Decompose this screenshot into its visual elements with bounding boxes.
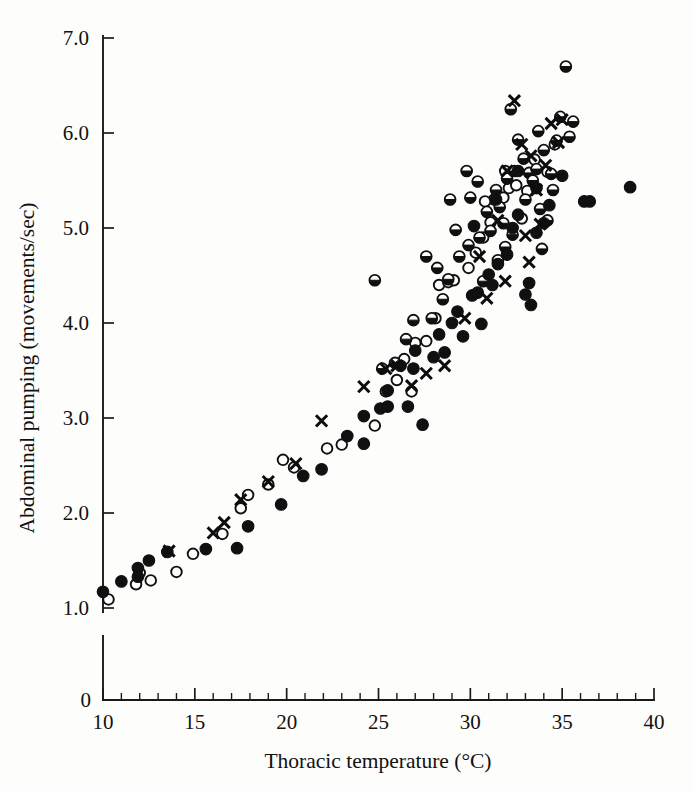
data-point (392, 375, 403, 386)
y-tick-label-6.0: 6.0 (63, 121, 89, 145)
y-origin-label: 0 (81, 688, 92, 712)
data-point (564, 131, 575, 142)
x-tick-label-15: 15 (184, 710, 205, 734)
figure-page: 1.02.03.04.05.06.07.00 10152025303540 Th… (0, 0, 693, 792)
data-point (624, 181, 636, 193)
data-point (358, 410, 370, 422)
x-tick-label-30: 30 (460, 710, 481, 734)
data-point (370, 420, 381, 431)
data-point (481, 206, 492, 217)
data-point (428, 351, 440, 363)
data-point (439, 347, 451, 359)
data-point (143, 555, 155, 567)
data-point (461, 166, 472, 177)
data-point (97, 586, 109, 598)
y-tick-label-1.0: 1.0 (63, 596, 89, 620)
data-point (507, 222, 519, 234)
data-point (145, 575, 156, 586)
data-point (275, 499, 287, 511)
data-point (483, 269, 495, 281)
data-point (490, 194, 502, 206)
data-point (523, 277, 535, 289)
data-point (463, 263, 474, 274)
x-tick-label-20: 20 (276, 710, 297, 734)
data-point (382, 385, 394, 397)
data-point (568, 116, 579, 127)
data-point (446, 317, 458, 329)
data-point (278, 455, 289, 466)
x-tick-label-25: 25 (368, 710, 389, 734)
x-tick-label-40: 40 (644, 710, 665, 734)
data-point (401, 334, 412, 345)
data-point (369, 275, 380, 286)
data-point (474, 232, 485, 243)
data-point (544, 199, 556, 211)
data-point (463, 240, 474, 251)
data-point (512, 165, 524, 177)
x-tick-label-35: 35 (552, 710, 573, 734)
data-point (487, 279, 499, 291)
data-point (485, 225, 496, 236)
y-tick-label-3.0: 3.0 (63, 406, 89, 430)
data-point (417, 419, 429, 431)
x-axis-title: Thoracic temperature (°C) (264, 749, 491, 773)
data-point (132, 571, 144, 583)
data-point (501, 249, 513, 261)
data-point (512, 209, 524, 221)
x-tick-label-10: 10 (93, 710, 114, 734)
data-point (465, 192, 476, 203)
data-point (231, 542, 243, 554)
y-tick-label-4.0: 4.0 (63, 311, 89, 335)
data-point (426, 313, 437, 324)
data-point (322, 443, 333, 454)
scatter-chart: 1.02.03.04.05.06.07.00 10152025303540 Th… (0, 0, 693, 792)
data-point (408, 315, 419, 326)
data-point (116, 576, 128, 588)
data-point (480, 196, 491, 207)
data-point (341, 430, 353, 442)
data-point (560, 61, 571, 72)
data-point (432, 263, 443, 274)
data-point (421, 336, 432, 347)
data-point (520, 289, 532, 301)
y-tick-label-7.0: 7.0 (63, 26, 89, 50)
data-point (445, 194, 456, 205)
data-point (520, 194, 531, 205)
data-point (548, 185, 559, 196)
data-point (437, 294, 448, 305)
data-point (358, 438, 370, 450)
data-point (450, 225, 461, 236)
data-point (382, 401, 394, 413)
data-point (242, 521, 254, 533)
data-point (433, 329, 445, 341)
data-point (402, 401, 414, 413)
data-point (537, 244, 548, 255)
data-point (200, 543, 212, 555)
data-point (556, 170, 568, 182)
data-point (472, 176, 483, 187)
data-point (584, 196, 596, 208)
data-point (188, 549, 199, 560)
data-point (316, 464, 328, 476)
data-point (468, 220, 480, 232)
y-tick-label-5.0: 5.0 (63, 216, 89, 240)
y-axis-title: Abdominal pumping (movements/sec) (15, 203, 39, 534)
data-point (171, 567, 182, 578)
data-point (525, 299, 537, 311)
data-point (538, 145, 549, 156)
y-tick-label-2.0: 2.0 (63, 501, 89, 525)
data-point (408, 363, 420, 375)
data-point (421, 251, 432, 262)
data-point (443, 274, 454, 285)
data-point (409, 345, 421, 357)
data-point (533, 126, 544, 137)
data-point (476, 318, 488, 330)
data-point (492, 258, 504, 270)
data-point (454, 251, 465, 262)
data-point (297, 470, 309, 482)
data-point (457, 331, 469, 343)
